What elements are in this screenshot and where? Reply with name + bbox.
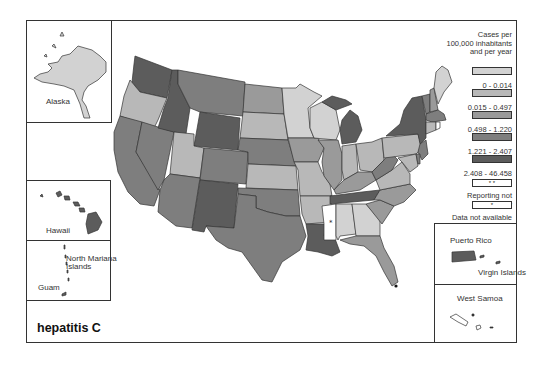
state-NM	[192, 180, 238, 232]
state-ND	[243, 84, 284, 114]
map-title: hepatitis C	[37, 321, 101, 335]
state-AK-islands	[44, 32, 64, 57]
west-samoa-label: West Samoa	[457, 294, 503, 303]
state-MI	[340, 110, 362, 144]
legend-swatch-not-mandatory: * *	[472, 179, 512, 187]
legend-swatch-not-available: *	[472, 201, 512, 209]
state-SD	[240, 112, 288, 140]
territory-PR	[452, 251, 476, 262]
state-IA	[288, 138, 324, 162]
state-FL	[340, 236, 398, 286]
legend: Cases per 100,000 inhabitants and per ye…	[430, 31, 512, 57]
state-WY	[194, 112, 240, 150]
legend-swatch	[472, 111, 512, 119]
legend-swatch	[472, 89, 512, 97]
legend-swatch	[472, 133, 512, 141]
puerto-rico-label: Puerto Rico	[450, 236, 492, 245]
alaska-label: Alaska	[46, 97, 70, 106]
legend-swatch	[472, 67, 512, 75]
hawaii-label: Hawaii	[46, 226, 70, 235]
state-HI	[86, 212, 102, 234]
state-AK	[34, 46, 106, 118]
islands-label: Islands	[66, 262, 91, 271]
svg-text:*: *	[329, 219, 333, 227]
legend-heading-3: and per year	[430, 48, 512, 57]
virgin-islands-label: Virgin Islands	[478, 268, 526, 277]
state-CO	[200, 148, 248, 184]
legend-swatch	[472, 155, 512, 163]
legend-item: * Data not available	[430, 193, 512, 222]
state-KS	[246, 164, 298, 190]
guam-label: Guam	[38, 283, 60, 292]
territory-samoa	[450, 314, 481, 330]
